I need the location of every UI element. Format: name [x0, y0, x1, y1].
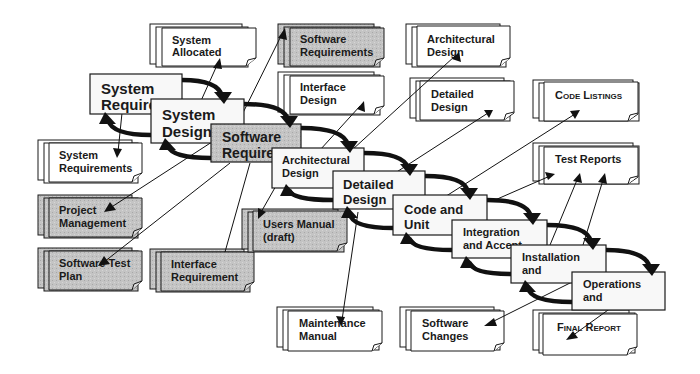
- doc-label: Test Reports: [555, 153, 621, 165]
- doc-software-test-plan: Software Test Plan: [38, 248, 142, 291]
- doc-label: Maintenance: [299, 317, 366, 329]
- doc-label: Software: [300, 33, 346, 45]
- doc-label: Interface: [300, 81, 346, 93]
- doc-label: Software: [422, 317, 468, 329]
- doc-label: Changes: [422, 330, 468, 342]
- phase-label: Detailed: [343, 177, 394, 192]
- doc-system-requirements: System Requirements: [38, 140, 142, 183]
- doc-interface-design: Interface Design: [278, 72, 384, 115]
- doc-interface-requirement: Interface Requirement: [150, 249, 254, 292]
- doc-label: Requirement: [171, 271, 239, 283]
- doc-label: Management: [59, 217, 127, 229]
- doc-detailed-design: Detailed Design: [410, 78, 514, 121]
- doc-label: Manual: [299, 330, 337, 342]
- doc-project-management: Project Management: [38, 195, 142, 238]
- phase-operations: Operations and: [572, 272, 665, 310]
- doc-label: Allocated: [172, 46, 222, 58]
- phase-label: Operations: [583, 278, 641, 290]
- doc-label: Requirements: [300, 46, 373, 58]
- doc-label: Architectural: [427, 33, 495, 45]
- phase-label: Code and: [404, 202, 463, 217]
- doc-label: Interface: [171, 258, 217, 270]
- phase-label: System: [101, 80, 154, 97]
- doc-label: Requirements: [59, 162, 132, 174]
- phase-label: Require: [101, 96, 157, 113]
- phase-label: Design: [282, 167, 319, 179]
- doc-software-changes: Software Changes: [400, 307, 504, 351]
- phase-label: Design: [162, 123, 212, 140]
- doc-label: Design: [300, 94, 337, 106]
- doc-final-report: Final Report: [533, 310, 637, 355]
- doc-label: Code Listings: [555, 89, 623, 101]
- doc-label: Detailed: [431, 88, 474, 100]
- doc-label: Final Report: [557, 321, 621, 333]
- doc-label: Project: [59, 204, 97, 216]
- waterfall-diagram: System Allocated Software Requirements I…: [0, 0, 700, 374]
- doc-label: System: [59, 149, 98, 161]
- doc-label: Design: [431, 101, 468, 113]
- phase-label: Installation: [522, 251, 580, 263]
- phase-label: Require: [222, 145, 274, 161]
- doc-label: Users Manual: [263, 218, 335, 230]
- phase-label: and: [522, 264, 542, 276]
- phase-label: Design: [343, 192, 386, 207]
- doc-label: (draft): [263, 231, 295, 243]
- phase-label: Architectural: [282, 154, 350, 166]
- phase-label: System: [162, 106, 215, 123]
- doc-label: Software Test: [59, 257, 131, 269]
- doc-maintenance-manual: Maintenance Manual: [277, 307, 382, 351]
- phase-label: Integration: [463, 226, 520, 238]
- doc-system-allocated: System Allocated: [150, 24, 256, 67]
- doc-software-requirements: Software Requirements: [278, 24, 384, 67]
- doc-label: System: [172, 34, 211, 46]
- doc-users-manual-draft: Users Manual (draft): [242, 209, 347, 252]
- phase-label: Software: [222, 129, 281, 145]
- doc-code-listings: Code Listings: [533, 80, 639, 121]
- phase-label: and: [583, 291, 603, 303]
- doc-label: Plan: [59, 270, 83, 282]
- phase-label: Unit: [404, 217, 430, 232]
